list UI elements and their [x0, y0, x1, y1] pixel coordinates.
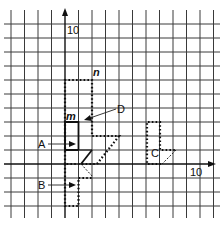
- label-b: B: [38, 179, 45, 191]
- pointer-d-arrowhead-icon: [84, 115, 92, 121]
- coordinate-grid-diagram: 10 10 n m C A B D: [0, 0, 224, 228]
- pointer-a: A: [38, 138, 76, 150]
- pointer-b: B: [38, 179, 76, 191]
- x-axis-arrowhead-icon: [208, 161, 216, 167]
- shape-b-tip: [81, 164, 93, 177]
- shape-m-tip: [81, 150, 92, 164]
- label-a: A: [38, 138, 46, 150]
- shape-c: C: [147, 122, 176, 164]
- axes: 10 10: [4, 8, 216, 218]
- shape-c-label: C: [151, 147, 159, 159]
- y-axis-tick-label: 10: [67, 24, 79, 36]
- shape-c-tip: [162, 150, 176, 164]
- shape-n-label: n: [93, 66, 100, 78]
- pointer-a-arrowhead-icon: [69, 141, 76, 147]
- grid: [4, 10, 220, 218]
- y-axis-arrowhead-icon: [62, 8, 68, 16]
- shape-m-label: m: [66, 110, 76, 122]
- label-d: D: [117, 103, 125, 115]
- pointer-b-arrowhead-icon: [69, 182, 76, 188]
- x-axis-tick-label: 10: [190, 166, 202, 178]
